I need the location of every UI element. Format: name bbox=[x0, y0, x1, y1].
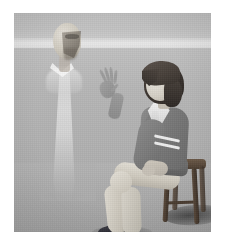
shin-right bbox=[121, 187, 142, 232]
apparition-brow bbox=[65, 34, 79, 39]
finger-little bbox=[113, 70, 117, 84]
resting-hand bbox=[142, 165, 155, 176]
knee bbox=[110, 171, 132, 193]
artwork-canvas bbox=[14, 13, 211, 232]
apparition-figure bbox=[40, 15, 96, 201]
seated-boy-figure bbox=[100, 61, 204, 227]
apparition-fade-out bbox=[40, 135, 96, 201]
apparition-jaw bbox=[64, 48, 77, 60]
image-frame bbox=[0, 0, 226, 244]
